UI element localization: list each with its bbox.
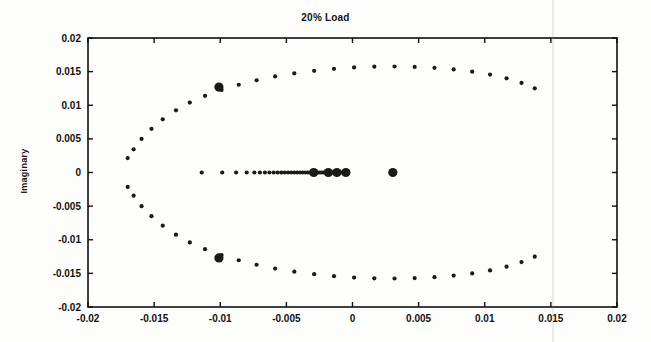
data-point (413, 65, 417, 69)
svg-text:0.02: 0.02 (607, 313, 627, 324)
data-point (292, 270, 296, 274)
data-point (245, 170, 249, 174)
svg-text:0: 0 (350, 313, 356, 324)
data-point (388, 168, 397, 177)
data-point (324, 168, 333, 177)
data-point (413, 276, 417, 280)
data-point (309, 168, 318, 177)
axis-frame (88, 38, 617, 307)
data-point (255, 78, 259, 82)
data-point (174, 233, 178, 237)
data-point (352, 275, 356, 279)
data-point (452, 273, 456, 277)
data-point (252, 170, 256, 174)
data-point (312, 69, 316, 73)
data-point (139, 137, 143, 141)
data-point (332, 274, 336, 278)
data-point (267, 170, 271, 174)
data-point (203, 247, 207, 251)
svg-text:-0.005: -0.005 (272, 313, 301, 324)
data-point (519, 260, 523, 264)
svg-text:-0.02: -0.02 (58, 302, 81, 313)
data-point (126, 156, 130, 160)
data-point (488, 72, 492, 76)
data-point (332, 168, 341, 177)
svg-text:-0.015: -0.015 (53, 268, 82, 279)
data-point (234, 170, 238, 174)
svg-text:-0.01: -0.01 (209, 313, 232, 324)
data-point (332, 67, 336, 71)
svg-text:0.005: 0.005 (56, 133, 81, 144)
svg-text:0.02: 0.02 (62, 33, 82, 44)
data-point (452, 67, 456, 71)
data-point (139, 204, 143, 208)
data-point (273, 266, 277, 270)
data-point (255, 263, 259, 267)
data-point (352, 65, 356, 69)
data-point (533, 86, 537, 90)
data-point (149, 214, 153, 218)
svg-text:0.005: 0.005 (406, 313, 431, 324)
data-point (504, 76, 508, 80)
data-point (372, 65, 376, 69)
data-point (263, 170, 267, 174)
data-point (161, 117, 165, 121)
x-axis-ticks: -0.02-0.015-0.01-0.00500.0050.010.0150.0… (77, 38, 628, 324)
data-point (488, 268, 492, 272)
data-point (470, 271, 474, 275)
svg-text:-0.02: -0.02 (77, 313, 100, 324)
scan-artifact-band (552, 0, 554, 342)
data-point (258, 170, 262, 174)
data-point (392, 276, 396, 280)
data-point (292, 71, 296, 75)
figure-panel: 20% Load Imaginary -0.02-0.015-0.01-0.00… (0, 0, 651, 342)
data-point (188, 100, 192, 104)
svg-text:0.01: 0.01 (475, 313, 495, 324)
series-poles-arc-lower (126, 185, 537, 281)
data-point (214, 82, 223, 91)
svg-text:-0.01: -0.01 (58, 234, 81, 245)
data-point (203, 94, 207, 98)
data-point (149, 127, 153, 131)
data-point (272, 170, 276, 174)
data-point (237, 258, 241, 262)
data-point (161, 224, 165, 228)
data-point (214, 253, 223, 262)
data-point (312, 272, 316, 276)
data-point (372, 276, 376, 280)
svg-text:0.015: 0.015 (56, 66, 81, 77)
data-point (237, 83, 241, 87)
data-point (200, 170, 204, 174)
data-point (533, 255, 537, 259)
data-point (188, 240, 192, 244)
data-point (132, 147, 136, 151)
data-point (392, 64, 396, 68)
data-point (132, 194, 136, 198)
data-point (519, 81, 523, 85)
data-point (470, 70, 474, 74)
data-point (126, 185, 130, 189)
svg-text:0.01: 0.01 (62, 100, 82, 111)
data-point (276, 170, 280, 174)
data-point (341, 168, 350, 177)
data-point (504, 265, 508, 269)
data-point (174, 108, 178, 112)
svg-text:-0.005: -0.005 (53, 201, 82, 212)
data-point (273, 74, 277, 78)
svg-text:0: 0 (75, 167, 81, 178)
series-poles-arc-upper (126, 64, 537, 160)
svg-text:-0.015: -0.015 (140, 313, 169, 324)
data-series-group (126, 64, 537, 280)
data-point (432, 66, 436, 70)
data-point (220, 170, 224, 174)
data-point (432, 275, 436, 279)
